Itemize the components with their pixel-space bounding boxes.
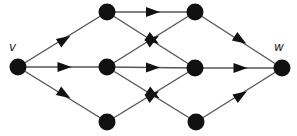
sink-label: w [274,40,284,54]
node-e [187,60,204,77]
node-v [10,59,27,76]
graph-canvas: v w [0,0,297,136]
node-d [187,4,204,21]
node-w [274,60,291,77]
arrowhead-icon [58,62,72,72]
edges-layer [18,7,282,122]
node-a [99,4,116,21]
source-label: v [9,40,17,54]
arrowhead-icon [146,62,160,72]
arrowhead-icon [146,7,160,17]
node-b [99,59,116,76]
node-c [99,114,116,131]
node-f [188,114,205,131]
arrowhead-icon [234,63,248,73]
